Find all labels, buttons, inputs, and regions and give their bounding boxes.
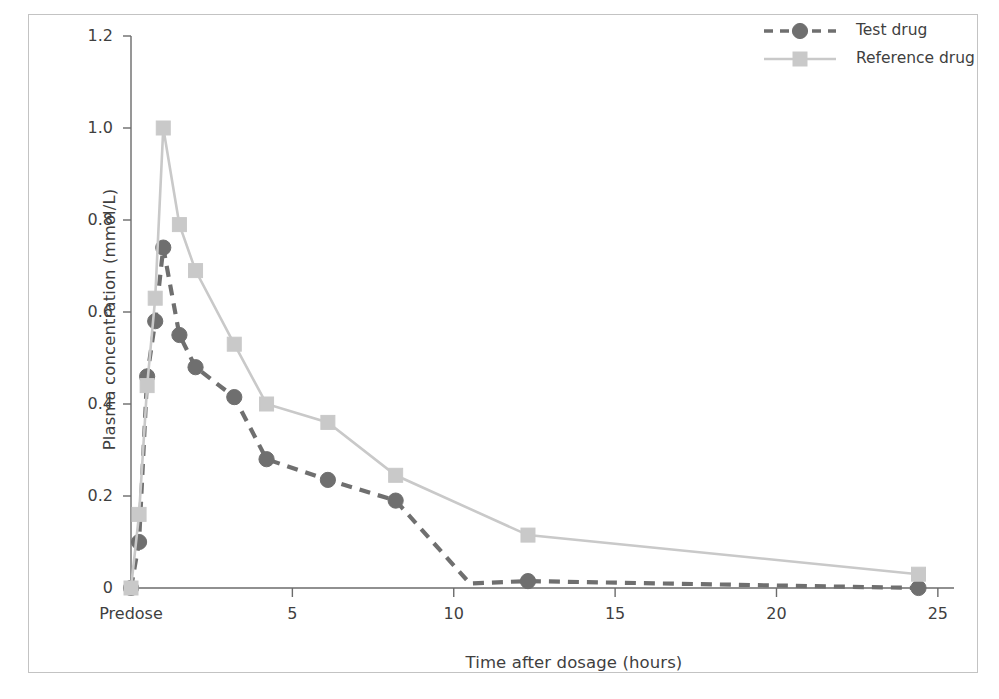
data-point-marker bbox=[321, 415, 335, 429]
data-point-marker bbox=[320, 472, 335, 487]
x-tick-label: 20 bbox=[716, 604, 836, 623]
cropped-header-text bbox=[30, 0, 970, 4]
y-axis-label-wrap: Plasma concentration (mmol/L) bbox=[100, 90, 119, 550]
data-point-marker bbox=[131, 534, 146, 549]
data-point-marker bbox=[911, 580, 926, 595]
legend-group bbox=[764, 23, 836, 66]
data-point-marker bbox=[188, 360, 203, 375]
legend-marker-0 bbox=[792, 23, 807, 38]
x-tick-label: 25 bbox=[878, 604, 998, 623]
axes-group bbox=[123, 36, 954, 597]
x-tick-label: Predose bbox=[71, 604, 191, 623]
data-point-marker bbox=[148, 314, 163, 329]
figure-container: 00.20.40.60.81.01.2 Predose510152025 Tes… bbox=[0, 0, 999, 699]
data-point-marker bbox=[227, 337, 241, 351]
data-point-marker bbox=[172, 218, 186, 232]
x-tick-label: 15 bbox=[555, 604, 675, 623]
data-point-marker bbox=[227, 390, 242, 405]
data-point-marker bbox=[388, 493, 403, 508]
data-point-marker bbox=[259, 452, 274, 467]
chart-frame: 00.20.40.60.81.01.2 Predose510152025 Tes… bbox=[28, 14, 978, 673]
data-point-marker bbox=[124, 581, 138, 595]
series-group bbox=[123, 121, 926, 596]
y-axis-label: Plasma concentration (mmol/L) bbox=[100, 189, 119, 451]
data-point-marker bbox=[521, 528, 535, 542]
y-tick-label: 0 bbox=[53, 578, 113, 597]
data-point-marker bbox=[911, 567, 925, 581]
data-point-marker bbox=[260, 397, 274, 411]
data-point-marker bbox=[172, 327, 187, 342]
legend-marker-1 bbox=[793, 52, 807, 66]
data-point-marker bbox=[140, 379, 154, 393]
legend-label-test-drug: Test drug bbox=[856, 21, 927, 39]
data-point-marker bbox=[132, 507, 146, 521]
data-point-marker bbox=[389, 468, 403, 482]
plot-area bbox=[29, 15, 977, 672]
legend-label-reference-drug: Reference drug bbox=[856, 49, 975, 67]
x-axis-label-wrap: Time after dosage (hours) bbox=[159, 653, 989, 672]
y-tick-label: 1.2 bbox=[53, 26, 113, 45]
data-point-marker bbox=[520, 574, 535, 589]
data-point-marker bbox=[148, 291, 162, 305]
x-axis-label: Time after dosage (hours) bbox=[466, 653, 683, 672]
data-point-marker bbox=[189, 264, 203, 278]
x-tick-label: 10 bbox=[394, 604, 514, 623]
x-tick-label: 5 bbox=[232, 604, 352, 623]
data-point-marker bbox=[156, 121, 170, 135]
series-line-reference-drug bbox=[131, 128, 918, 588]
